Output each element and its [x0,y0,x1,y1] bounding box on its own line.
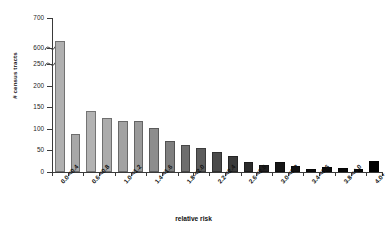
bar [275,162,285,172]
bar-series [0,0,387,238]
x-tick [272,172,273,176]
x-tick [335,172,336,176]
x-tick [241,172,242,176]
bar [55,41,65,173]
bar [338,168,348,172]
bar [369,161,379,172]
bar [306,169,316,172]
bar [118,121,128,172]
bar [86,111,96,172]
x-tick [83,172,84,176]
x-tick [146,172,147,176]
x-tick [303,172,304,176]
x-axis-title: relative risk [0,215,387,222]
bar [181,145,191,172]
x-tick [52,172,53,176]
x-tick [366,172,367,176]
x-tick [209,172,210,176]
bar [244,162,254,172]
x-tick [178,172,179,176]
bar-chart: # census tracts 050100150200250600700 0.… [0,0,387,238]
x-tick [115,172,116,176]
bar [149,128,159,172]
bar [212,152,222,172]
